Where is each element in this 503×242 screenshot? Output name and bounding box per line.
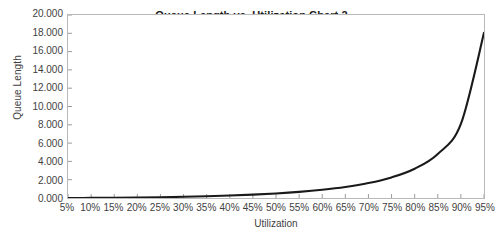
- y-axis-tick-label: 2.000: [18, 176, 63, 186]
- y-axis-tick-label: 4.000: [18, 157, 63, 167]
- chart-container: Queue Length vs. Utilization Chart 2 Que…: [0, 0, 503, 242]
- data-series-line: [68, 33, 484, 198]
- x-axis-tick-labels: 5%10%15%20%25%30%35%40%45%50%55%60%65%70…: [67, 201, 485, 215]
- y-axis-tick-label: 12.000: [18, 83, 63, 93]
- y-axis-tick-label: 18.000: [18, 28, 63, 38]
- y-axis-tick-label: 6.000: [18, 139, 63, 149]
- y-axis-tick-label: 10.000: [18, 102, 63, 112]
- y-axis-tick-label: 16.000: [18, 46, 63, 56]
- y-axis-tick-label: 8.000: [18, 120, 63, 130]
- y-axis-tick-label: 14.000: [18, 65, 63, 75]
- plot-svg: [68, 15, 484, 198]
- x-axis-tick-label: 95%: [465, 201, 503, 214]
- plot-area: [67, 14, 485, 199]
- y-axis-tick-labels: 0.0002.0004.0006.0008.00010.00012.00014.…: [18, 14, 63, 199]
- y-axis-tick-marks: [68, 15, 72, 198]
- x-axis-title: Utilization: [67, 218, 485, 229]
- y-axis-tick-label: 20.000: [18, 9, 63, 19]
